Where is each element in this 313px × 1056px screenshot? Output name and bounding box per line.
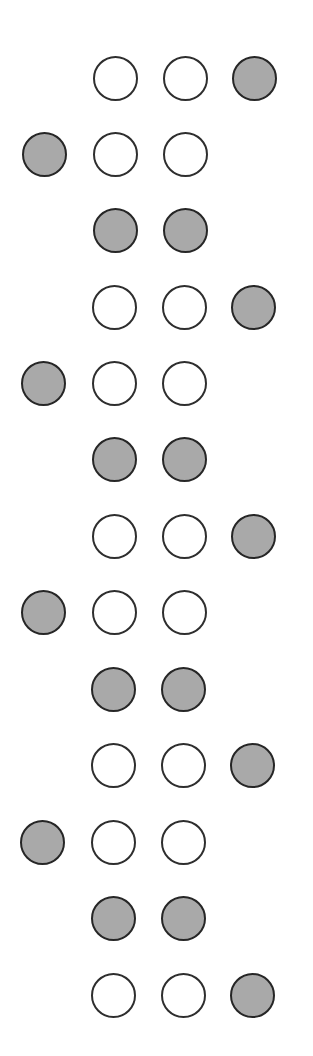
empty-circle-icon [93,132,138,177]
filled-circle-icon [230,973,275,1018]
empty-circle-icon [91,743,136,788]
empty-circle-icon [92,590,137,635]
empty-circle-icon [162,285,207,330]
filled-circle-icon [230,743,275,788]
filled-circle-icon [231,285,276,330]
filled-circle-icon [22,132,67,177]
filled-circle-icon [91,896,136,941]
empty-circle-icon [92,285,137,330]
filled-circle-icon [21,361,66,406]
empty-circle-icon [162,361,207,406]
filled-circle-icon [161,667,206,712]
filled-circle-icon [91,667,136,712]
empty-circle-icon [92,514,137,559]
empty-circle-icon [162,514,207,559]
filled-circle-icon [163,208,208,253]
empty-circle-icon [161,820,206,865]
filled-circle-icon [231,514,276,559]
empty-circle-icon [161,743,206,788]
filled-circle-icon [161,896,206,941]
empty-circle-icon [91,820,136,865]
filled-circle-icon [20,820,65,865]
filled-circle-icon [21,590,66,635]
empty-circle-icon [161,973,206,1018]
filled-circle-icon [93,208,138,253]
filled-circle-icon [232,56,277,101]
empty-circle-icon [163,56,208,101]
empty-circle-icon [91,973,136,1018]
empty-circle-icon [162,590,207,635]
filled-circle-icon [92,437,137,482]
empty-circle-icon [93,56,138,101]
dot-pattern-diagram [0,0,313,1056]
empty-circle-icon [163,132,208,177]
filled-circle-icon [162,437,207,482]
empty-circle-icon [92,361,137,406]
